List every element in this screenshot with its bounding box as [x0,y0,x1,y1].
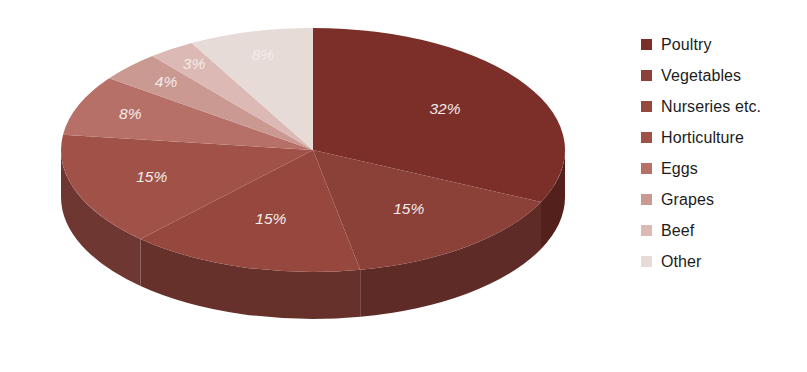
legend-item[interactable]: Eggs [641,153,807,184]
legend-item-label: Grapes [661,191,714,209]
legend-color-swatch [641,163,652,174]
chart-legend: PoultryVegetablesNurseries etc.Horticult… [641,29,807,277]
legend-color-swatch [641,225,652,236]
legend-item-label: Poultry [661,36,712,54]
legend-color-swatch [641,70,652,81]
legend-color-swatch [641,194,652,205]
legend-item-label: Vegetables [661,67,741,85]
legend-item[interactable]: Horticulture [641,122,807,153]
legend-color-swatch [641,256,652,267]
legend-item-label: Horticulture [661,129,744,147]
pie-slice-value-label: 8% [252,46,275,63]
legend-item[interactable]: Poultry [641,29,807,60]
legend-color-swatch [641,132,652,143]
legend-color-swatch [641,39,652,50]
legend-item-label: Eggs [661,160,698,178]
legend-item[interactable]: Other [641,246,807,277]
legend-color-swatch [641,101,652,112]
pie-slice-value-label: 4% [155,73,178,90]
pie-slice-value-label: 15% [255,210,286,227]
pie-slice-value-label: 8% [119,105,142,122]
pie-slice-value-label: 15% [393,200,424,217]
legend-item[interactable]: Vegetables [641,60,807,91]
legend-item-label: Nurseries etc. [661,98,761,116]
legend-item-label: Other [661,253,702,271]
pie-top-slices [61,28,565,272]
legend-item[interactable]: Nurseries etc. [641,91,807,122]
pie-chart-figure: 32%15%15%15%8%4%3%8% PoultryVegetablesNu… [0,0,807,372]
pie-slice-value-label: 32% [429,100,460,117]
legend-item[interactable]: Beef [641,215,807,246]
pie-slice-value-label: 15% [136,168,167,185]
pie-slice-value-label: 3% [183,55,206,72]
legend-item-label: Beef [661,222,694,240]
legend-item[interactable]: Grapes [641,184,807,215]
